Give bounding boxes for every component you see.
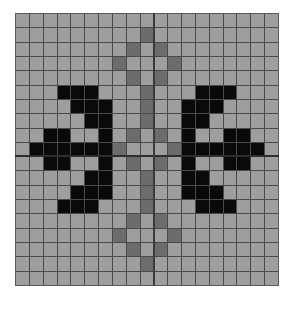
- grid-cell[interactable]: [58, 157, 71, 170]
- grid-cell[interactable]: [44, 14, 57, 27]
- grid-cell[interactable]: [224, 243, 237, 256]
- grid-cell[interactable]: [30, 157, 43, 170]
- grid-cell[interactable]: [16, 71, 29, 84]
- grid-cell[interactable]: [265, 28, 278, 41]
- grid-cell[interactable]: [99, 186, 112, 199]
- grid-cell[interactable]: [182, 171, 195, 184]
- grid-cell[interactable]: [141, 200, 154, 213]
- grid-cell[interactable]: [127, 214, 140, 227]
- grid-cell[interactable]: [224, 200, 237, 213]
- grid-cell[interactable]: [141, 186, 154, 199]
- grid-cell[interactable]: [265, 272, 278, 285]
- grid-cell[interactable]: [182, 272, 195, 285]
- grid-cell[interactable]: [85, 143, 98, 156]
- grid-cell[interactable]: [44, 100, 57, 113]
- grid-cell[interactable]: [182, 14, 195, 27]
- grid-cell[interactable]: [99, 14, 112, 27]
- grid-cell[interactable]: [58, 28, 71, 41]
- grid-cell[interactable]: [71, 143, 84, 156]
- grid-cell[interactable]: [251, 186, 264, 199]
- grid-cell[interactable]: [224, 86, 237, 99]
- grid-cell[interactable]: [196, 186, 209, 199]
- grid-cell[interactable]: [154, 14, 167, 27]
- grid-cell[interactable]: [71, 43, 84, 56]
- grid-cell[interactable]: [85, 43, 98, 56]
- grid-cell[interactable]: [58, 114, 71, 127]
- grid-cell[interactable]: [265, 214, 278, 227]
- grid-cell[interactable]: [30, 143, 43, 156]
- grid-cell[interactable]: [58, 129, 71, 142]
- grid-cell[interactable]: [210, 43, 223, 56]
- grid-cell[interactable]: [30, 57, 43, 70]
- grid-cell[interactable]: [30, 71, 43, 84]
- grid-cell[interactable]: [196, 14, 209, 27]
- grid-cell[interactable]: [265, 14, 278, 27]
- grid-cell[interactable]: [196, 43, 209, 56]
- grid-cell[interactable]: [30, 171, 43, 184]
- grid-cell[interactable]: [182, 214, 195, 227]
- grid-cell[interactable]: [182, 114, 195, 127]
- grid-cell[interactable]: [196, 243, 209, 256]
- grid-cell[interactable]: [99, 100, 112, 113]
- grid-cell[interactable]: [113, 86, 126, 99]
- grid-cell[interactable]: [210, 71, 223, 84]
- grid-cell[interactable]: [44, 186, 57, 199]
- grid-cell[interactable]: [168, 86, 181, 99]
- grid-cell[interactable]: [196, 272, 209, 285]
- grid-cell[interactable]: [30, 214, 43, 227]
- grid-cell[interactable]: [154, 28, 167, 41]
- grid-cell[interactable]: [99, 229, 112, 242]
- grid-cell[interactable]: [224, 43, 237, 56]
- grid-cell[interactable]: [210, 129, 223, 142]
- grid-cell[interactable]: [210, 157, 223, 170]
- grid-cell[interactable]: [251, 43, 264, 56]
- grid-cell[interactable]: [16, 186, 29, 199]
- grid-cell[interactable]: [265, 114, 278, 127]
- grid-cell[interactable]: [99, 71, 112, 84]
- grid-cell[interactable]: [168, 129, 181, 142]
- grid-cell[interactable]: [251, 214, 264, 227]
- grid-cell[interactable]: [58, 171, 71, 184]
- grid-cell[interactable]: [196, 257, 209, 270]
- grid-cell[interactable]: [71, 257, 84, 270]
- grid-cell[interactable]: [16, 214, 29, 227]
- grid-cell[interactable]: [196, 86, 209, 99]
- grid-cell[interactable]: [182, 71, 195, 84]
- grid-cell[interactable]: [16, 43, 29, 56]
- grid-cell[interactable]: [251, 200, 264, 213]
- grid-cell[interactable]: [237, 43, 250, 56]
- grid-cell[interactable]: [71, 14, 84, 27]
- grid-cell[interactable]: [182, 100, 195, 113]
- grid-cell[interactable]: [99, 57, 112, 70]
- grid-cell[interactable]: [71, 71, 84, 84]
- grid-cell[interactable]: [16, 114, 29, 127]
- grid-cell[interactable]: [99, 214, 112, 227]
- grid-cell[interactable]: [196, 171, 209, 184]
- grid-cell[interactable]: [141, 214, 154, 227]
- grid-cell[interactable]: [154, 129, 167, 142]
- grid-cell[interactable]: [44, 272, 57, 285]
- grid-cell[interactable]: [154, 186, 167, 199]
- grid-cell[interactable]: [224, 71, 237, 84]
- grid-cell[interactable]: [113, 171, 126, 184]
- grid-cell[interactable]: [113, 229, 126, 242]
- grid-cell[interactable]: [30, 257, 43, 270]
- grid-cell[interactable]: [71, 86, 84, 99]
- grid-cell[interactable]: [182, 243, 195, 256]
- grid-cell[interactable]: [168, 114, 181, 127]
- grid-cell[interactable]: [154, 71, 167, 84]
- grid-cell[interactable]: [196, 229, 209, 242]
- grid-cell[interactable]: [58, 143, 71, 156]
- grid-cell[interactable]: [141, 114, 154, 127]
- grid-cell[interactable]: [30, 14, 43, 27]
- grid-cell[interactable]: [127, 186, 140, 199]
- grid-cell[interactable]: [237, 71, 250, 84]
- grid-cell[interactable]: [127, 257, 140, 270]
- grid-cell[interactable]: [85, 129, 98, 142]
- grid-cell[interactable]: [237, 200, 250, 213]
- grid-cell[interactable]: [58, 14, 71, 27]
- grid-cell[interactable]: [99, 43, 112, 56]
- grid-cell[interactable]: [196, 100, 209, 113]
- grid-cell[interactable]: [265, 186, 278, 199]
- grid-cell[interactable]: [58, 100, 71, 113]
